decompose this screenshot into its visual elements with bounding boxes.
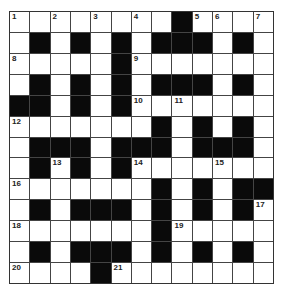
grid-cell[interactable] [132, 117, 151, 137]
grid-cell[interactable] [51, 263, 70, 283]
grid-cell[interactable]: 12 [10, 117, 29, 137]
grid-cell[interactable] [30, 117, 49, 137]
grid-cell[interactable] [91, 221, 110, 241]
grid-cell[interactable] [193, 221, 212, 241]
grid-cell[interactable] [51, 75, 70, 95]
grid-cell[interactable] [213, 117, 232, 137]
grid-cell[interactable]: 18 [10, 221, 29, 241]
grid-cell[interactable] [254, 263, 273, 283]
grid-cell[interactable] [213, 75, 232, 95]
grid-cell[interactable] [233, 263, 252, 283]
grid-cell[interactable] [91, 117, 110, 137]
grid-cell[interactable] [172, 200, 191, 220]
grid-cell[interactable] [254, 75, 273, 95]
grid-cell[interactable] [132, 179, 151, 199]
grid-cell[interactable] [51, 242, 70, 262]
grid-cell[interactable] [51, 117, 70, 137]
grid-cell[interactable] [213, 221, 232, 241]
grid-cell[interactable] [254, 242, 273, 262]
grid-cell[interactable] [254, 96, 273, 116]
grid-cell[interactable] [30, 179, 49, 199]
grid-cell[interactable]: 5 [193, 12, 212, 32]
grid-cell[interactable]: 20 [10, 263, 29, 283]
grid-cell[interactable]: 19 [172, 221, 191, 241]
grid-cell[interactable] [10, 138, 29, 158]
grid-cell[interactable] [213, 54, 232, 74]
grid-cell[interactable] [254, 54, 273, 74]
grid-cell[interactable] [71, 221, 90, 241]
grid-cell[interactable]: 11 [172, 96, 191, 116]
grid-cell[interactable] [193, 158, 212, 178]
grid-cell[interactable] [10, 75, 29, 95]
grid-cell[interactable] [71, 179, 90, 199]
grid-cell[interactable] [172, 138, 191, 158]
grid-cell[interactable] [132, 75, 151, 95]
grid-cell[interactable]: 6 [213, 12, 232, 32]
grid-cell[interactable] [172, 54, 191, 74]
grid-cell[interactable] [51, 221, 70, 241]
grid-cell[interactable] [254, 138, 273, 158]
grid-cell[interactable] [254, 117, 273, 137]
grid-cell[interactable] [172, 158, 191, 178]
grid-cell[interactable] [10, 242, 29, 262]
grid-cell[interactable]: 16 [10, 179, 29, 199]
grid-cell[interactable] [112, 117, 131, 137]
grid-cell[interactable] [193, 263, 212, 283]
grid-cell[interactable] [91, 33, 110, 53]
grid-cell[interactable]: 15 [213, 158, 232, 178]
grid-cell[interactable] [213, 242, 232, 262]
grid-cell[interactable] [91, 54, 110, 74]
grid-cell[interactable] [91, 179, 110, 199]
grid-cell[interactable]: 9 [132, 54, 151, 74]
grid-cell[interactable] [71, 54, 90, 74]
grid-cell[interactable]: 14 [132, 158, 151, 178]
grid-cell[interactable]: 10 [132, 96, 151, 116]
grid-cell[interactable] [132, 200, 151, 220]
grid-cell[interactable] [51, 54, 70, 74]
grid-cell[interactable] [71, 12, 90, 32]
grid-cell[interactable] [10, 200, 29, 220]
grid-cell[interactable] [112, 179, 131, 199]
grid-cell[interactable] [132, 33, 151, 53]
grid-cell[interactable] [30, 54, 49, 74]
grid-cell[interactable] [172, 242, 191, 262]
grid-cell[interactable] [233, 96, 252, 116]
grid-cell[interactable] [152, 12, 171, 32]
grid-cell[interactable] [71, 263, 90, 283]
grid-cell[interactable] [254, 158, 273, 178]
grid-cell[interactable] [172, 263, 191, 283]
grid-cell[interactable] [30, 221, 49, 241]
grid-cell[interactable] [233, 12, 252, 32]
grid-cell[interactable] [132, 242, 151, 262]
grid-cell[interactable] [112, 12, 131, 32]
grid-cell[interactable]: 13 [51, 158, 70, 178]
grid-cell[interactable] [233, 158, 252, 178]
grid-cell[interactable] [172, 117, 191, 137]
grid-cell[interactable] [51, 33, 70, 53]
grid-cell[interactable]: 17 [254, 200, 273, 220]
grid-cell[interactable] [193, 96, 212, 116]
grid-cell[interactable] [172, 179, 191, 199]
grid-cell[interactable] [152, 263, 171, 283]
grid-cell[interactable] [213, 96, 232, 116]
grid-cell[interactable]: 3 [91, 12, 110, 32]
grid-cell[interactable] [91, 158, 110, 178]
grid-cell[interactable] [10, 158, 29, 178]
grid-cell[interactable] [233, 54, 252, 74]
grid-cell[interactable] [10, 33, 29, 53]
grid-cell[interactable] [132, 263, 151, 283]
grid-cell[interactable]: 2 [51, 12, 70, 32]
grid-cell[interactable] [91, 96, 110, 116]
grid-cell[interactable] [213, 179, 232, 199]
grid-cell[interactable]: 8 [10, 54, 29, 74]
grid-cell[interactable] [213, 33, 232, 53]
grid-cell[interactable] [91, 138, 110, 158]
grid-cell[interactable] [152, 96, 171, 116]
grid-cell[interactable]: 7 [254, 12, 273, 32]
grid-cell[interactable] [30, 263, 49, 283]
grid-cell[interactable] [193, 54, 212, 74]
grid-cell[interactable]: 4 [132, 12, 151, 32]
grid-cell[interactable] [51, 200, 70, 220]
grid-cell[interactable] [152, 158, 171, 178]
grid-cell[interactable] [213, 200, 232, 220]
